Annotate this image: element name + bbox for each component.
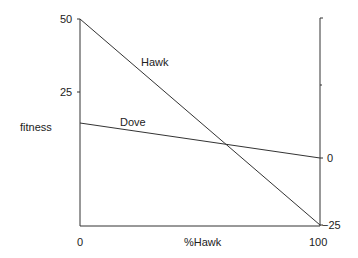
y-tick-label-50: 50 [60,13,72,25]
y-right-tick-label-0: 0 [327,152,333,164]
hawk-series-label: Hawk [141,56,169,68]
x-tick-label-100: 100 [309,236,327,248]
y-right-tick-label-neg25: −25 [322,219,341,231]
chart-plot [0,0,358,258]
y-axis-label: fitness [20,121,52,133]
y-tick-label-25: 25 [60,86,72,98]
x-tick-label-0: 0 [77,236,83,248]
x-axis-label: %Hawk [184,236,221,248]
dove-series-label: Dove [120,116,146,128]
dove-line [80,123,320,158]
hawk-line [80,19,320,225]
